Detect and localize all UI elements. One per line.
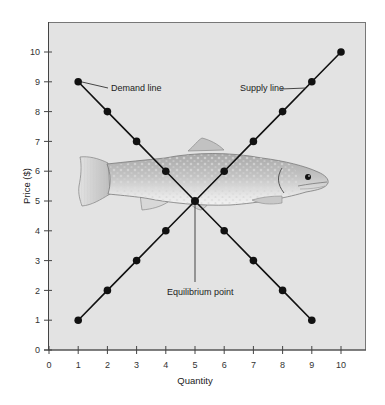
fish-eye xyxy=(305,174,311,180)
data-point xyxy=(133,138,141,146)
data-point xyxy=(220,227,228,235)
y-tick-label: 9 xyxy=(35,77,40,87)
data-point xyxy=(308,316,316,324)
y-tick-label: 6 xyxy=(35,166,40,176)
y-tick-label: 7 xyxy=(35,137,40,147)
y-tick-label: 1 xyxy=(35,315,40,325)
x-tick-label: 0 xyxy=(46,360,51,370)
data-point xyxy=(74,316,82,324)
data-point xyxy=(104,108,112,116)
x-axis-title: Quantity xyxy=(177,375,213,386)
x-tick-label: 8 xyxy=(280,360,285,370)
x-tick-label: 2 xyxy=(105,360,110,370)
x-tick-label: 3 xyxy=(134,360,139,370)
x-tick-label: 1 xyxy=(76,360,81,370)
y-tick-label: 10 xyxy=(30,47,40,57)
data-point xyxy=(337,48,345,56)
data-point xyxy=(279,287,287,295)
x-tick-label: 7 xyxy=(251,360,256,370)
y-axis: 012345678910 xyxy=(30,22,52,355)
supply-demand-chart: 012345678910 012345678910 Demand line Su… xyxy=(0,0,385,405)
x-axis: 012345678910 xyxy=(44,346,366,370)
x-tick-label: 6 xyxy=(222,360,227,370)
y-tick-label: 5 xyxy=(35,196,40,206)
data-point xyxy=(162,167,170,175)
data-point xyxy=(308,78,316,86)
data-point xyxy=(74,78,82,86)
data-point xyxy=(220,167,228,175)
y-tick-label: 2 xyxy=(35,286,40,296)
x-tick-label: 9 xyxy=(309,360,314,370)
data-point xyxy=(191,197,199,205)
x-tick-label: 5 xyxy=(192,360,197,370)
data-point xyxy=(133,257,141,265)
demand-line-label: Demand line xyxy=(111,83,162,93)
x-tick-label: 4 xyxy=(163,360,168,370)
y-tick-label: 0 xyxy=(35,345,40,355)
y-tick-label: 4 xyxy=(35,226,40,236)
data-point xyxy=(162,227,170,235)
y-axis-title: Price ($) xyxy=(21,168,32,204)
data-point xyxy=(250,257,258,265)
y-tick-label: 8 xyxy=(35,107,40,117)
x-tick-label: 10 xyxy=(336,360,346,370)
supply-line-label: Supply line xyxy=(240,83,284,93)
data-point xyxy=(279,108,287,116)
data-point xyxy=(250,138,258,146)
equilibrium-point-label: Equilibrium point xyxy=(167,287,234,297)
y-tick-label: 3 xyxy=(35,256,40,266)
data-point xyxy=(104,287,112,295)
